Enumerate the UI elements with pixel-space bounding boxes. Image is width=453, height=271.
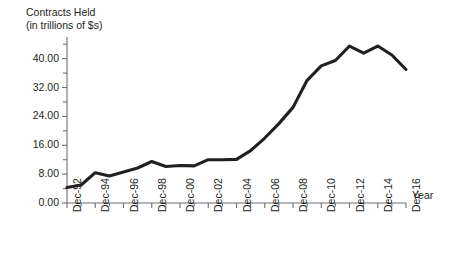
x-tick-label: Dec-98 bbox=[156, 178, 168, 212]
chart-plot-area bbox=[0, 0, 453, 271]
data-series-line bbox=[67, 46, 406, 187]
y-axis bbox=[62, 37, 67, 203]
y-tick-label: 8.00 bbox=[13, 167, 59, 179]
y-tick-label: 16.00 bbox=[13, 138, 59, 150]
x-tick-label: Dec-10 bbox=[325, 178, 337, 212]
x-tick-label: Dec-94 bbox=[99, 178, 111, 212]
x-tick-label: Dec-12 bbox=[354, 178, 366, 212]
x-tick-label: Dec-06 bbox=[269, 178, 281, 212]
y-tick-label: 40.00 bbox=[13, 52, 59, 64]
y-tick-label: 32.00 bbox=[13, 81, 59, 93]
x-tick-label: Dec-16 bbox=[410, 178, 422, 212]
x-tick-label: Dec-08 bbox=[297, 178, 309, 212]
y-tick-label: 24.00 bbox=[13, 109, 59, 121]
x-tick-label: Dec-14 bbox=[382, 178, 394, 212]
x-tick-label: Dec-02 bbox=[212, 178, 224, 212]
x-tick-label: Dec-92 bbox=[71, 178, 83, 212]
x-tick-label: Dec-00 bbox=[184, 178, 196, 212]
y-tick-label: 0.00 bbox=[13, 196, 59, 208]
chart-figure: Contracts Held (in trillions of $s) Year… bbox=[0, 0, 453, 271]
x-tick-label: Dec-04 bbox=[241, 178, 253, 212]
x-tick-label: Dec-96 bbox=[128, 178, 140, 212]
